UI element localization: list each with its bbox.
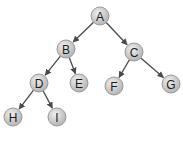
- node-label: I: [55, 111, 58, 125]
- edge-b-e: [69, 57, 75, 73]
- node-h: H: [4, 108, 22, 126]
- node-i: I: [48, 108, 66, 126]
- edge-b-d: [45, 56, 60, 75]
- edge-a-b: [73, 22, 93, 42]
- nodes: ABCDEFGHI: [4, 7, 180, 126]
- node-label: G: [166, 78, 175, 92]
- edge-d-i: [43, 91, 52, 108]
- edge-c-f: [119, 60, 129, 78]
- node-a: A: [91, 7, 109, 25]
- tree-diagram: ABCDEFGHI: [0, 0, 183, 142]
- edge-a-c: [106, 23, 127, 45]
- node-label: C: [130, 46, 139, 60]
- node-label: H: [9, 111, 18, 125]
- node-e: E: [70, 74, 88, 92]
- node-d: D: [30, 74, 48, 92]
- node-g: G: [162, 75, 180, 93]
- node-label: F: [110, 80, 117, 94]
- node-b: B: [57, 40, 75, 58]
- edge-d-h: [19, 90, 33, 109]
- node-c: C: [125, 43, 143, 61]
- node-label: B: [62, 43, 70, 57]
- edge-c-g: [141, 58, 164, 78]
- node-label: D: [35, 77, 44, 91]
- edges: [19, 22, 163, 109]
- node-label: A: [96, 10, 104, 24]
- node-f: F: [105, 77, 123, 95]
- node-label: E: [75, 77, 83, 91]
